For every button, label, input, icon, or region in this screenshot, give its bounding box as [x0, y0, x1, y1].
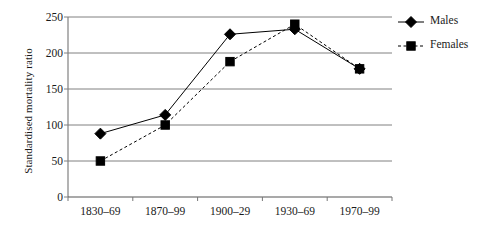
legend	[398, 17, 424, 51]
data-series-layer	[95, 20, 365, 165]
legend-label-males: Males	[430, 14, 458, 26]
data-point-marker	[225, 29, 236, 40]
data-point-marker	[96, 157, 104, 165]
data-point-marker	[161, 121, 169, 129]
data-point-marker	[407, 42, 415, 50]
series-line	[100, 29, 359, 133]
data-point-marker	[95, 128, 106, 139]
chart-container: Standardised mortality ratio 05010015020…	[0, 0, 478, 246]
axis-lines	[68, 17, 392, 197]
x-axis-tick-marks	[68, 197, 392, 201]
data-point-marker	[406, 17, 417, 28]
series-males	[95, 24, 365, 139]
data-point-marker	[160, 109, 171, 120]
data-point-marker	[291, 20, 299, 28]
data-point-marker	[226, 57, 234, 65]
legend-label-females: Females	[430, 38, 468, 50]
data-point-marker	[355, 65, 363, 73]
plot-area	[0, 0, 478, 246]
series-females	[96, 20, 364, 165]
